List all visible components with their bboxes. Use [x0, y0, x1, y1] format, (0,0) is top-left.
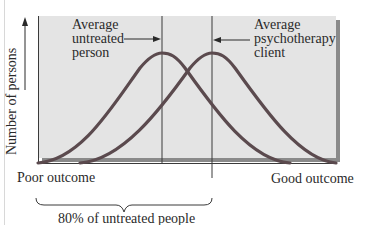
- x-label-good: Good outcome: [271, 171, 354, 186]
- label-client-1: Average: [254, 17, 300, 32]
- label-client-3: client: [254, 45, 285, 60]
- brace-label: 80% of untreated people: [58, 211, 195, 225]
- brace-80-percent: [36, 198, 212, 212]
- label-untreated-3: person: [72, 45, 109, 60]
- y-axis-label: Number of persons: [4, 48, 20, 155]
- label-client-2: psychotherapy: [254, 31, 336, 46]
- label-untreated-1: Average: [72, 17, 118, 32]
- y-axis-arrowhead: [22, 17, 28, 26]
- label-untreated-2: untreated: [72, 31, 124, 46]
- x-label-poor: Poor outcome: [17, 170, 95, 185]
